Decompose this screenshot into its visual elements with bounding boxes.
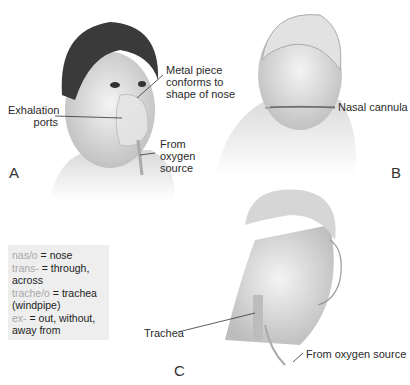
glossary-root: nas/o xyxy=(12,249,38,261)
label-from-oxygen-source-c: From oxygen source xyxy=(306,348,406,360)
label-line: Exhalation xyxy=(8,104,58,116)
label-trachea: Trachea xyxy=(144,327,184,339)
glossary-entry: trache/o = trachea (windpipe) xyxy=(12,287,105,312)
label-from-oxygen-source-a: From oxygen source xyxy=(160,138,195,174)
label-line: oxygen xyxy=(160,150,195,162)
word-parts-glossary: nas/o = nose trans- = through, across tr… xyxy=(8,245,109,340)
figure-b-patient-with-nasal-cannula xyxy=(215,15,356,175)
label-nasal-cannula: Nasal cannula xyxy=(338,101,408,113)
panel-letter-b: B xyxy=(391,164,401,181)
label-line: Metal piece xyxy=(166,64,235,76)
glossary-root: ex- xyxy=(12,312,27,324)
glossary-entry: ex- = out, without, away from xyxy=(12,312,105,337)
label-line: conforms to xyxy=(166,76,235,88)
glossary-entry: nas/o = nose xyxy=(12,249,105,262)
glossary-root: trans- xyxy=(12,262,39,274)
panel-letter-c: C xyxy=(174,362,185,379)
label-line: shape of nose xyxy=(166,88,235,100)
glossary-definition: = nose xyxy=(38,249,73,261)
label-line: source xyxy=(160,162,195,174)
glossary-root: trache/o xyxy=(12,287,50,299)
label-line: ports xyxy=(8,116,58,128)
label-line: From xyxy=(160,138,195,150)
figure-a-patient-with-mask xyxy=(50,22,175,200)
label-metal-piece: Metal piece conforms to shape of nose xyxy=(166,64,235,100)
glossary-entry: trans- = through, across xyxy=(12,262,105,287)
panel-letter-a: A xyxy=(9,164,19,181)
figure-c-patient-with-transtracheal-catheter xyxy=(225,189,341,365)
label-exhalation-ports: Exhalation ports xyxy=(8,104,58,128)
